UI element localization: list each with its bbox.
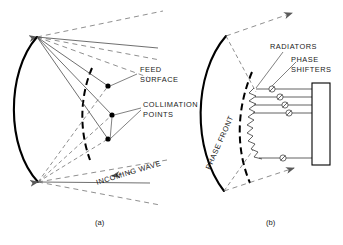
collimated-ray-top: [37, 37, 158, 48]
beam-arrow-bottom: [224, 168, 294, 191]
leader-collimation-bracket: [110, 117, 112, 140]
phase-shifter-4: [286, 110, 292, 116]
phase-shifters-label-line2: SHIFTERS: [291, 65, 332, 74]
beam-arrow-top: [226, 13, 292, 36]
panel-a-rays-from-top-apex: [37, 37, 112, 139]
collimated-ray-bottom: [38, 182, 150, 183]
panel-a: FEED SURFACE COLLIMATION POINTS INCOMING…: [14, 11, 198, 227]
panel-a-rays-from-bottom-apex: [38, 86, 112, 182]
collimation-point-2: [109, 112, 114, 117]
feed-surface-label-line2: SURFACE: [140, 75, 178, 84]
panel-a-caption: (a): [95, 218, 105, 227]
dashed-ray-a2: [37, 37, 150, 78]
figure-container: FEED SURFACE COLLIMATION POINTS INCOMING…: [0, 0, 343, 245]
ray-bottom-to-cp2: [38, 115, 112, 182]
beam-forming-network-block: [312, 83, 330, 165]
collimation-points-label-line2: POINTS: [143, 110, 174, 119]
lens-aperture-arc-a: [14, 37, 38, 182]
leader-collimation-2: [110, 110, 141, 139]
ray-bottom-to-cp3: [38, 139, 108, 182]
phase-front-label: PHASE FRONT: [204, 114, 236, 171]
phase-shifter-5: [280, 155, 286, 161]
leader-radiators: [256, 52, 283, 88]
edge-ray-top: [226, 36, 256, 92]
radiator-sawtooth-array: [247, 88, 262, 159]
feed-surface-label-line1: FEED: [140, 65, 162, 74]
ray-bottom-to-cp1: [38, 86, 108, 182]
phase-shifters-label-line1: PHASE: [291, 55, 319, 64]
diagram-svg: FEED SURFACE COLLIMATION POINTS INCOMING…: [0, 0, 343, 245]
radiators-label: RADIATORS: [270, 42, 317, 51]
collimation-points-label-line1: COLLIMATION: [143, 100, 198, 109]
phase-shifter-2: [277, 94, 283, 100]
ray-top-to-cp3: [37, 37, 108, 139]
edge-ray-bottom: [224, 150, 253, 191]
phase-shifter-3: [282, 102, 288, 108]
panel-b-caption: (b): [266, 218, 276, 227]
phase-shifter-1: [269, 86, 275, 92]
panel-b: RADIATORS PHASE SHIFTERS PHASE FRONT (b): [201, 13, 332, 227]
incoming-wave-ray-top: [37, 11, 163, 37]
leader-feed-surface: [110, 74, 137, 86]
collimation-point-1: [105, 83, 110, 88]
ray-top-to-cp1: [37, 37, 108, 86]
